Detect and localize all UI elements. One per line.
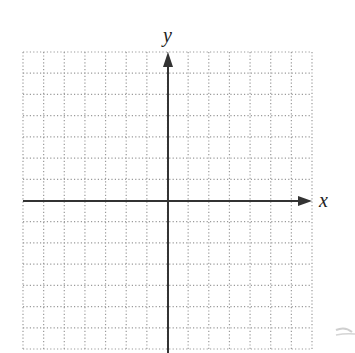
coordinate-plane: x y xyxy=(0,0,355,353)
y-axis-label: y xyxy=(161,24,172,47)
scan-smudge xyxy=(336,328,355,335)
y-axis-arrow-icon xyxy=(163,52,173,67)
x-axis-label: x xyxy=(318,189,328,211)
x-axis-arrow-icon xyxy=(298,196,312,206)
